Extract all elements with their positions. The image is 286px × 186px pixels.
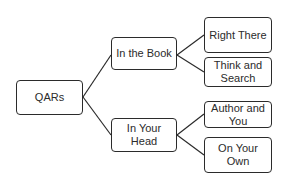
node-label: Right There (209, 29, 266, 42)
node-label: Author and You (208, 102, 268, 128)
node-in-your-head: In Your Head (111, 118, 177, 152)
connector-book-think-search (177, 55, 204, 72)
connector-root-head (83, 97, 111, 135)
node-label: In the Book (116, 47, 172, 60)
node-on-your-own: On Your Own (204, 137, 272, 173)
connector-head-author-you (177, 114, 204, 135)
connector-root-book (83, 55, 111, 97)
connector-book-right-there (177, 35, 204, 55)
node-label: QARs (35, 91, 64, 104)
node-qars: QARs (16, 80, 83, 115)
connector-head-on-your-own (177, 135, 204, 155)
node-think-and-search: Think and Search (204, 57, 272, 87)
qar-diagram: QARs In the Book In Your Head Right Ther… (0, 0, 286, 186)
node-label: On Your Own (208, 142, 268, 168)
node-author-and-you: Author and You (204, 101, 272, 128)
node-label: Think and Search (208, 59, 268, 85)
node-right-there: Right There (204, 17, 272, 53)
node-in-the-book: In the Book (111, 37, 177, 70)
node-label: In Your Head (115, 122, 173, 148)
